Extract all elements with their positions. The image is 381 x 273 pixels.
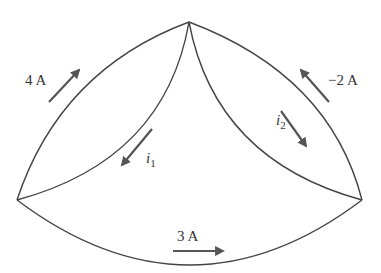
arrow-minus2a-icon	[301, 70, 329, 102]
label-i2: i2	[276, 113, 286, 131]
label-i1-sub: 1	[150, 157, 156, 169]
label-3a: 3 A	[177, 229, 198, 244]
branch-inner-left	[17, 22, 189, 200]
label-4a: 4 A	[25, 73, 46, 88]
label-minus-2a: −2 A	[328, 73, 358, 88]
branch-inner-right	[189, 22, 362, 200]
branch-outer-left	[17, 22, 189, 200]
circuit-diagram: 4 A −2 A 3 A i1 i2	[0, 0, 381, 273]
label-i1: i1	[146, 151, 156, 169]
branch-outer-right	[189, 22, 362, 200]
label-i2-sub: 2	[280, 119, 286, 131]
